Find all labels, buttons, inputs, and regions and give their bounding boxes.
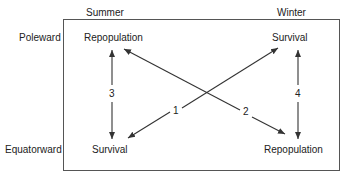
arrow-label-2: 2 [243, 106, 249, 118]
arrow-label-3: 3 [109, 88, 115, 100]
arrow-2 [124, 49, 285, 134]
arrow-label-4: 4 [295, 88, 301, 100]
arrow-1 [128, 48, 278, 138]
arrow-label-1: 1 [173, 105, 179, 117]
